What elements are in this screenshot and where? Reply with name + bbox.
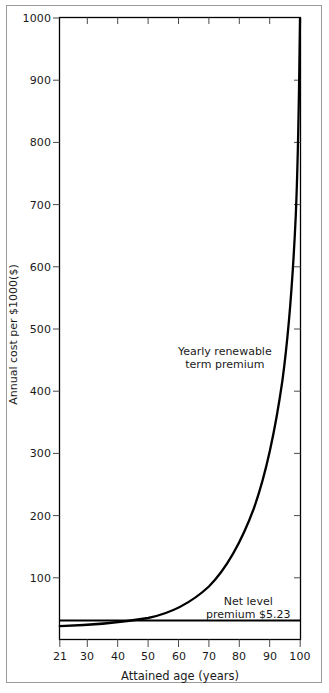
y-tick-label-700: 700 <box>8 199 51 212</box>
net-level-premium-label: Net level premium $5.23 <box>206 596 290 622</box>
y-tick-label-800: 800 <box>8 136 51 149</box>
yrt-label-line2: term premium <box>178 359 272 372</box>
y-tick-label-900: 900 <box>8 74 51 87</box>
x-tick-label-40: 40 <box>111 650 125 663</box>
x-tick-label-30: 30 <box>80 650 94 663</box>
chart-plot-svg <box>0 0 329 693</box>
y-tick-label-300: 300 <box>8 447 51 460</box>
y-tick-label-100: 100 <box>8 572 51 585</box>
x-axis-title: Attained age (years) <box>59 669 301 683</box>
y-axis-ticks <box>53 18 60 578</box>
yearly-renewable-term-premium-label: Yearly renewable term premium <box>178 346 272 372</box>
nlp-label-line2: premium $5.23 <box>206 609 290 622</box>
y-axis-title: Annual cost per $1000($) <box>7 255 20 415</box>
x-axis-ticks-bottom <box>60 640 300 648</box>
x-tick-label-70: 70 <box>202 650 216 663</box>
figure-container: 1000 900 800 700 600 500 400 300 200 100… <box>0 0 329 693</box>
x-tick-label-21: 21 <box>53 650 67 663</box>
x-tick-label-90: 90 <box>263 650 277 663</box>
x-tick-label-80: 80 <box>232 650 246 663</box>
plot-area-border <box>60 18 301 640</box>
x-tick-label-60: 60 <box>172 650 186 663</box>
x-tick-label-50: 50 <box>141 650 155 663</box>
x-tick-label-100: 100 <box>289 650 310 663</box>
y-tick-label-1000: 1000 <box>8 12 51 25</box>
y-tick-label-200: 200 <box>8 510 51 523</box>
